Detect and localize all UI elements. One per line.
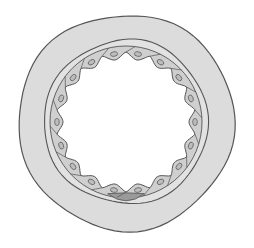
- nucleus: [55, 118, 60, 125]
- vessel-cross-section: [0, 0, 254, 248]
- nucleus: [193, 118, 198, 125]
- vessel-diagram: [0, 0, 254, 248]
